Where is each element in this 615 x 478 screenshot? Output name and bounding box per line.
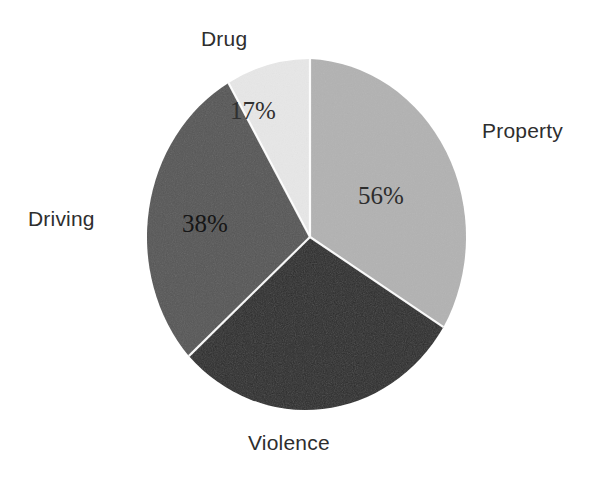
- category-label-driving: Driving: [28, 208, 95, 229]
- slice-value-drug: 17%: [230, 98, 276, 123]
- pie-chart-figure: Drug Property Driving Violence 17% 56% 3…: [0, 0, 615, 478]
- pie-chart-graphic: [0, 0, 615, 478]
- category-label-drug: Drug: [201, 28, 247, 49]
- category-label-property: Property: [482, 120, 563, 141]
- category-label-violence: Violence: [248, 432, 330, 453]
- slice-value-violence: 47%: [284, 337, 330, 362]
- slice-value-driving: 38%: [182, 211, 228, 236]
- slice-value-property: 56%: [358, 183, 404, 208]
